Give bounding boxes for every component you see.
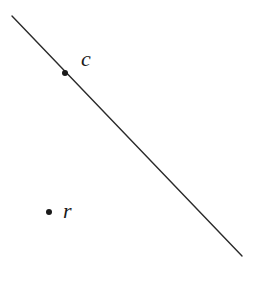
point-c: [62, 70, 68, 76]
label-r: r: [63, 198, 72, 223]
point-r: [46, 209, 52, 215]
line: [12, 16, 242, 256]
label-c: c: [81, 46, 91, 71]
geometry-diagram: c r: [0, 0, 257, 284]
